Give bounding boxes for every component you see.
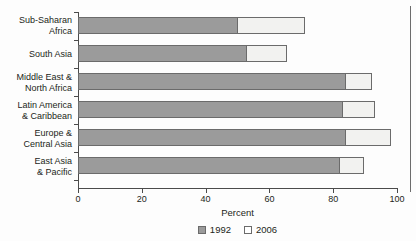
x-axis-tick (206, 189, 207, 193)
page-border-rule (410, 6, 411, 192)
x-axis-tick (397, 189, 398, 193)
bar-segment-1992 (78, 45, 247, 62)
bar-segment-1992 (78, 101, 343, 118)
x-axis-tick-label: 20 (122, 194, 162, 205)
bar-segment-1992 (78, 157, 340, 174)
category-label-line: Europe & (0, 128, 72, 139)
x-axis-tick (78, 189, 79, 193)
bar-segment-1992 (78, 129, 346, 146)
category-label-line: Latin America (0, 100, 72, 111)
x-axis-tick-label: 100 (377, 194, 416, 205)
category-label-line: & Caribbean (0, 111, 72, 122)
category-label-line: Sub-Saharan (0, 15, 72, 26)
category-label-line: South Asia (0, 49, 72, 60)
category-label-line: Central Asia (0, 139, 72, 150)
legend-swatch-icon (244, 226, 252, 234)
category-label-europe-central-asia: Europe & Central Asia (0, 128, 72, 149)
category-label-latin-america-caribbean: Latin America & Caribbean (0, 100, 72, 121)
x-axis-tick (333, 189, 334, 193)
legend-swatch-icon (198, 226, 206, 234)
x-axis-tick-label: 40 (186, 194, 226, 205)
bar-segment-1992 (78, 73, 346, 90)
category-label-south-asia: South Asia (0, 49, 72, 60)
legend-label: 2006 (256, 224, 277, 235)
x-axis-title: Percent (78, 207, 397, 218)
legend-item-2006: 2006 (244, 224, 277, 235)
x-axis-tick (142, 189, 143, 193)
plot-area (78, 12, 397, 188)
x-axis-tick (269, 189, 270, 193)
x-axis-tick-label: 0 (58, 194, 98, 205)
category-label-line: Middle East & (0, 72, 72, 83)
x-axis-line (78, 188, 398, 189)
chart-container: Sub-Saharan Africa South Asia Middle Eas… (0, 0, 416, 241)
bar-segment-1992 (78, 17, 238, 34)
category-label-east-asia-pacific: East Asia & Pacific (0, 156, 72, 177)
x-axis-tick-label: 80 (313, 194, 353, 205)
category-label-sub-saharan-africa: Sub-Saharan Africa (0, 15, 72, 36)
chart-legend: 1992 2006 (78, 224, 397, 235)
category-label-line: Africa (0, 26, 72, 37)
category-label-line: & Pacific (0, 167, 72, 178)
category-label-line: East Asia (0, 156, 72, 167)
category-label-middle-east-north-africa: Middle East & North Africa (0, 72, 72, 93)
legend-label: 1992 (210, 224, 231, 235)
legend-item-1992: 1992 (198, 224, 231, 235)
category-label-line: North Africa (0, 83, 72, 94)
x-axis-tick-label: 60 (249, 194, 289, 205)
